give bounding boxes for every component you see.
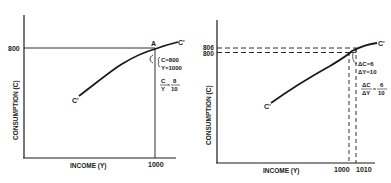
right-x-axis-label: INCOME (Y) xyxy=(263,167,299,175)
left-ratio-val-num: 8 xyxy=(173,78,177,84)
right-panel: 806 800 1000 1010 INCOME (Y) CONSUMPTION… xyxy=(203,20,387,175)
right-annot-dy: ΔY=10 xyxy=(358,69,377,75)
right-x-tick-1000: 1000 xyxy=(334,166,350,173)
right-annot-dc: ΔC=6 xyxy=(358,61,374,67)
right-curve-end-label: C' xyxy=(378,40,385,47)
left-brace xyxy=(158,57,160,67)
right-ratio-num: ΔC xyxy=(362,82,371,88)
consumption-diagrams: 800 1000 INCOME (Y) CONSUMPTION (C) A C'… xyxy=(0,0,391,183)
left-ratio-val-den: 10 xyxy=(171,86,178,92)
left-annot-c: C=800 xyxy=(161,57,180,63)
left-x-axis-label: INCOME (Y) xyxy=(70,162,106,170)
right-curve-start-label: C' xyxy=(264,103,271,110)
left-y-axis-label: CONSUMPTION (C) xyxy=(12,80,20,140)
left-ratio-num: C xyxy=(161,78,166,84)
right-ratio-val-den: 10 xyxy=(378,90,385,96)
left-y-tick-800: 800 xyxy=(8,45,20,52)
left-curve-start-label: C' xyxy=(72,97,79,104)
right-y-tick-800: 800 xyxy=(203,50,214,57)
right-ratio-eq: = xyxy=(373,86,376,92)
left-panel: 800 1000 INCOME (Y) CONSUMPTION (C) A C'… xyxy=(8,15,185,170)
left-x-tick-1000: 1000 xyxy=(148,161,164,168)
left-ratio-den: Y xyxy=(161,86,165,92)
left-point-a-label: A xyxy=(151,40,156,47)
left-annot-y: Y=1000 xyxy=(161,65,183,71)
right-ratio-den: ΔY xyxy=(362,90,370,96)
left-angle-arc xyxy=(150,55,153,63)
right-x-tick-1010: 1010 xyxy=(356,166,372,173)
right-ratio-val-num: 6 xyxy=(380,82,384,88)
left-ratio-eq: = xyxy=(167,82,170,88)
left-curve-end-label: C' xyxy=(178,39,185,46)
right-y-axis-label: CONSUMPTION (C) xyxy=(205,85,213,145)
